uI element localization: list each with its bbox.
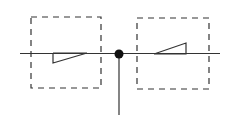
- pivot-dot: [115, 50, 124, 59]
- diagram-canvas: [0, 0, 240, 123]
